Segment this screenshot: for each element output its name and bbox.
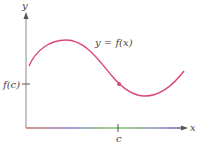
curve-label: y = f(x) <box>94 37 133 48</box>
y-axis-arrow-icon <box>24 12 29 19</box>
y-axis-label: y <box>21 0 28 11</box>
function-curve <box>29 40 184 96</box>
point-c-fc <box>117 82 121 86</box>
x-tick-label-c: c <box>116 133 122 144</box>
y-tick-label-fc: f(c) <box>2 79 20 90</box>
function-diagram: y x c f(c) y = f(x) <box>0 0 197 147</box>
x-axis-arrow-icon <box>181 126 188 131</box>
x-axis-label: x <box>190 122 196 133</box>
